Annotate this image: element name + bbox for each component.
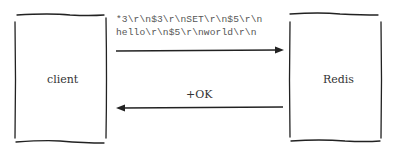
- request-arrow: [116, 47, 284, 54]
- response-arrow: [116, 105, 283, 112]
- client-label: client: [47, 73, 78, 86]
- request-payload-line-1: *3\r\n$3\r\nSET\r\n$5\r\n: [116, 13, 262, 26]
- request-payload-line-2: hello\r\n$5\r\nworld\r\n: [116, 26, 257, 39]
- redis-label: Redis: [323, 73, 354, 86]
- response-label: +OK: [186, 88, 212, 101]
